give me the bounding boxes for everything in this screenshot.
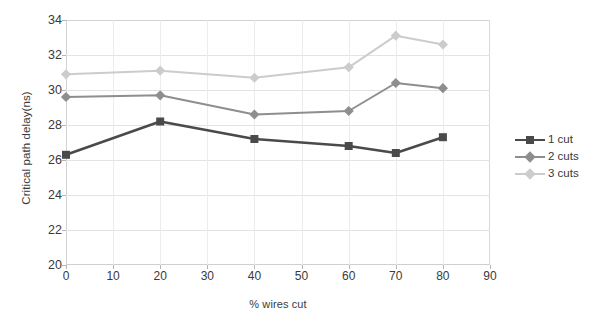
- line-chart: Critical path delay(ns) 2022242628303234…: [0, 0, 609, 328]
- x-tick-label: 80: [428, 270, 458, 282]
- x-tick-label: 40: [239, 270, 269, 282]
- data-point-marker: [155, 90, 165, 100]
- x-tick-label: 30: [192, 270, 222, 282]
- data-point-marker: [391, 78, 401, 88]
- legend-swatch-icon: [515, 150, 545, 164]
- y-tick-label: 22: [36, 224, 62, 237]
- x-tick-label: 90: [475, 270, 505, 282]
- x-axis-title: % wires cut: [66, 298, 490, 310]
- data-point-marker: [249, 109, 259, 119]
- data-point-marker: [61, 69, 71, 79]
- data-point-marker: [250, 135, 258, 143]
- legend-marker-icon: [524, 151, 535, 162]
- y-tick-label: 28: [36, 119, 62, 132]
- legend-label: 3 cuts: [545, 168, 579, 180]
- data-point-marker: [345, 142, 353, 150]
- legend-marker-icon: [526, 136, 534, 144]
- x-tick-label: 50: [287, 270, 317, 282]
- data-point-marker: [438, 39, 448, 49]
- legend-label: 2 cuts: [545, 151, 579, 163]
- x-tick-label: 20: [145, 270, 175, 282]
- legend-item[interactable]: 3 cuts: [515, 165, 607, 182]
- data-point-marker: [156, 118, 164, 126]
- legend-item[interactable]: 2 cuts: [515, 148, 607, 165]
- legend-label: 1 cut: [545, 134, 573, 146]
- x-tick-label: 0: [51, 270, 81, 282]
- data-point-marker: [438, 83, 448, 93]
- data-point-marker: [155, 66, 165, 76]
- y-tick-label: 24: [36, 189, 62, 202]
- x-tick-label: 60: [334, 270, 364, 282]
- legend-swatch-icon: [515, 167, 545, 181]
- y-tick-label: 34: [36, 14, 62, 27]
- data-point-marker: [62, 151, 70, 159]
- chart-legend: 1 cut2 cuts3 cuts: [515, 131, 607, 182]
- legend-swatch-icon: [515, 133, 545, 147]
- y-tick-label: 26: [36, 154, 62, 167]
- data-point-marker: [392, 149, 400, 157]
- x-tick-label: 10: [98, 270, 128, 282]
- series-lines: [66, 20, 490, 265]
- data-point-marker: [249, 73, 259, 83]
- y-tick-label: 30: [36, 84, 62, 97]
- plot-area: [66, 20, 490, 265]
- x-tick-label: 70: [381, 270, 411, 282]
- data-point-marker: [61, 92, 71, 102]
- legend-item[interactable]: 1 cut: [515, 131, 607, 148]
- y-tick-label: 32: [36, 49, 62, 62]
- series-line: [66, 36, 443, 78]
- data-point-marker: [344, 106, 354, 116]
- legend-marker-icon: [524, 168, 535, 179]
- data-point-marker: [439, 133, 447, 141]
- y-axis-title: Critical path delay(ns): [20, 48, 32, 248]
